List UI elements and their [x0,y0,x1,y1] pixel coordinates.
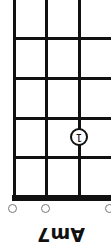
fret-line [13,156,111,159]
string-line [13,0,16,201]
open-string-icon [105,204,111,213]
fret-line [13,37,111,40]
string-line [45,0,48,201]
open-string-icon [8,204,17,213]
nut [12,195,111,201]
string-line [78,0,81,201]
finger-marker: 1 [70,128,88,146]
chord-diagram: 1 Am7 [0,0,111,252]
fret-line [13,117,111,120]
chord-name: Am7 [33,224,89,246]
open-string-icon [41,204,50,213]
fret-line [13,77,111,80]
